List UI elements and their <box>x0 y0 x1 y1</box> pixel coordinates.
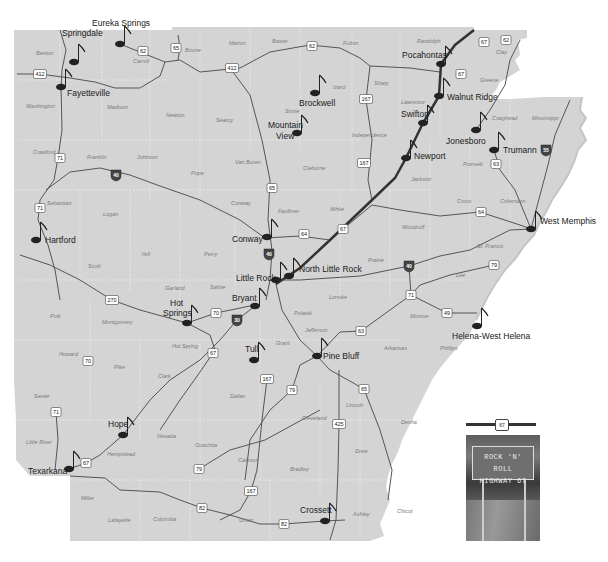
us-highway-shield: 425 <box>333 420 346 429</box>
county-label: Lawrence <box>401 99 425 105</box>
us-highway-shield: 270 <box>106 296 119 305</box>
sign-post-left <box>482 480 484 541</box>
county-label: Hot Spring <box>172 343 199 349</box>
county-label: Little River <box>26 439 53 445</box>
county-label: Polk <box>50 313 61 319</box>
us-highway-shield: 67 <box>479 38 489 47</box>
us-highway-shield: 49 <box>442 309 452 318</box>
svg-text:67: 67 <box>340 226 346 232</box>
county-label: Izard <box>333 84 346 90</box>
city-label: Hartford <box>45 235 76 245</box>
us-highway-shield: 71 <box>51 408 61 417</box>
county-label: Logan <box>103 211 118 217</box>
us-highway-shield: 167 <box>245 487 258 496</box>
county-label: Pike <box>114 364 125 370</box>
us-highway-shield: 63 <box>356 327 366 336</box>
us-highway-shield: 167 <box>358 159 371 168</box>
highway-sign: ROCK 'N' ROLL HIGHWAY 67 <box>472 446 534 480</box>
county-label: Faulkner <box>278 208 301 214</box>
svg-text:67: 67 <box>210 350 216 356</box>
county-label: Madison <box>107 104 128 110</box>
us-highway-shield: 71 <box>406 291 416 300</box>
county-label: Arkansas <box>383 345 407 351</box>
county-label: Miller <box>81 495 95 501</box>
county-label: Montgomery <box>102 319 134 325</box>
svg-text:62: 62 <box>503 37 509 43</box>
county-label: Phillips <box>440 345 458 351</box>
us-highway-shield: 70 <box>83 357 93 366</box>
county-label: Jackson <box>410 176 431 182</box>
city-label: Walnut Ridge <box>447 92 498 102</box>
county-label: Sharp <box>374 80 389 86</box>
svg-text:167: 167 <box>359 160 368 166</box>
city-label: Hope <box>108 419 129 429</box>
county-label: Sebastian <box>47 200 71 206</box>
county-label: Greene <box>480 77 498 83</box>
city-label: Newport <box>414 151 446 161</box>
svg-text:65: 65 <box>269 185 275 191</box>
svg-text:49: 49 <box>444 310 450 316</box>
svg-text:40: 40 <box>113 172 119 178</box>
county-label: Stone <box>285 108 299 114</box>
county-label: Cleveland <box>302 415 327 421</box>
svg-text:412: 412 <box>35 71 44 77</box>
svg-text:67: 67 <box>458 71 464 77</box>
us-highway-shield: 412 <box>226 64 239 73</box>
us-highway-shield: 71 <box>55 154 65 163</box>
county-label: Clark <box>158 373 171 379</box>
us-highway-shield: 67 <box>338 225 348 234</box>
us-highway-shield: 62 <box>307 42 317 51</box>
us-highway-shield: 62 <box>138 47 148 56</box>
county-label: Craighead <box>492 115 518 121</box>
county-label: Van Buren <box>235 159 261 165</box>
sign-post-right <box>524 480 526 541</box>
city-label: Eureka Springs <box>92 18 150 28</box>
svg-text:270: 270 <box>107 297 116 303</box>
us-highway-shield: 64 <box>299 230 309 239</box>
city-label: Springs <box>163 308 192 318</box>
us-highway-shield: 67 <box>81 459 91 468</box>
city-label: Jonesboro <box>446 136 486 146</box>
county-label: Desha <box>401 419 417 425</box>
county-label: Benton <box>36 50 53 56</box>
county-label: Sevier <box>34 393 51 399</box>
county-label: Cleburne <box>303 165 325 171</box>
county-label: Ouachita <box>195 442 217 448</box>
svg-text:65: 65 <box>361 386 367 392</box>
county-label: Franklin <box>87 154 107 160</box>
city-marker[interactable]: View <box>276 131 295 141</box>
county-label: Chicot <box>397 508 413 514</box>
county-label: Fulton <box>343 40 358 46</box>
county-label: Pulaski <box>294 310 313 316</box>
us-highway-shield: 82 <box>279 520 289 529</box>
county-label: Howard <box>59 351 79 357</box>
us-highway-shield: 65 <box>171 44 181 53</box>
county-label: Mississippi <box>532 115 559 121</box>
us-highway-shield: 71 <box>35 204 45 213</box>
city-label: Trumann <box>503 145 537 155</box>
svg-text:62: 62 <box>309 43 315 49</box>
svg-text:79: 79 <box>491 262 497 268</box>
svg-text:167: 167 <box>246 488 255 494</box>
county-label: Drew <box>355 448 369 454</box>
county-label: Independence <box>352 132 387 138</box>
svg-text:425: 425 <box>334 421 343 427</box>
county-label: Crittenden <box>500 198 525 204</box>
city-label: Little Rock <box>236 273 276 283</box>
inset-road <box>466 500 540 541</box>
county-label: Jefferson <box>304 327 328 333</box>
county-label: Columbia <box>153 516 176 522</box>
city-label: Pocahontas <box>402 50 447 60</box>
city-label: Springdale <box>62 28 103 38</box>
svg-text:79: 79 <box>289 387 295 393</box>
city-label: Hot <box>170 298 184 308</box>
svg-text:64: 64 <box>301 231 307 237</box>
interstate-shield: 30 <box>232 315 242 326</box>
interstate-shield: 40 <box>264 249 274 260</box>
county-label: Searcy <box>216 117 234 123</box>
svg-text:82: 82 <box>199 505 205 511</box>
city-label: View <box>276 131 295 141</box>
city-marker[interactable]: Springs <box>163 308 192 318</box>
svg-text:65: 65 <box>173 45 179 51</box>
us-highway-shield: 63 <box>491 160 501 169</box>
